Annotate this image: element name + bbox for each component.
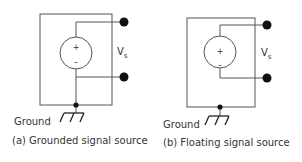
diagram-grounded-source <box>40 14 124 122</box>
diagram-floating-source <box>187 18 267 125</box>
caption: (b) Floating signal source <box>163 137 290 148</box>
plus-sign: + <box>73 43 80 52</box>
terminal-negative <box>263 74 272 83</box>
plus-sign: + <box>217 47 224 56</box>
wire-positive <box>76 22 124 37</box>
terminal-negative <box>120 73 129 82</box>
ground-node <box>217 104 222 109</box>
ground-label: Ground <box>163 119 200 130</box>
ground-node <box>73 102 78 107</box>
minus-sign: – <box>218 61 222 70</box>
minus-sign: – <box>74 58 78 67</box>
ground-symbol-icon <box>205 116 229 125</box>
voltage-label: Vs <box>261 47 272 61</box>
terminal-positive <box>263 21 272 30</box>
wire-positive <box>220 25 267 36</box>
terminal-positive <box>120 18 129 27</box>
wire-negative-terminal <box>220 68 267 78</box>
ground-label: Ground <box>14 116 51 127</box>
caption: (a) Grounded signal source <box>12 135 148 146</box>
diagram-canvas: + – Vs Ground (a) Grounded signal source… <box>0 0 302 162</box>
ground-symbol-icon <box>60 113 84 122</box>
voltage-label: Vs <box>117 46 128 60</box>
